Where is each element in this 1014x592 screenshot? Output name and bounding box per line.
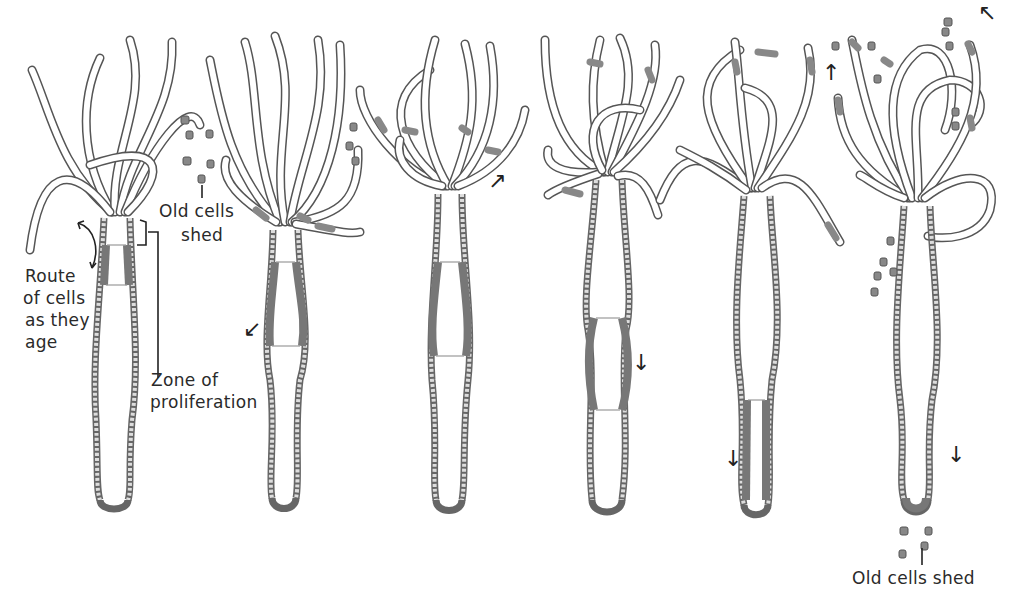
hydra-stage-4 <box>545 38 680 512</box>
route-label-line1: Route <box>25 265 76 287</box>
arrow-down-stage-2: ↙ <box>243 318 261 340</box>
tentacles <box>838 40 992 238</box>
arrow-down-stage-5: ↓ <box>724 448 742 470</box>
zone-of-proliferation-label-line2: proliferation <box>150 391 258 413</box>
old-cells-shed-label-bottom: Old cells shed <box>852 567 975 589</box>
tentacles <box>360 40 525 186</box>
route-label-line2: of cells <box>23 287 85 309</box>
arrow-down-stage-4: ↓ <box>632 352 650 374</box>
body-column <box>95 218 136 509</box>
body-column <box>897 206 938 512</box>
arrow-up-right-stage-3: ↗ <box>488 170 506 192</box>
route-label-line3: as they <box>25 309 90 331</box>
body-column <box>267 230 305 509</box>
hydra-stage-3 <box>360 40 525 511</box>
arrow-down-stage-6: ↓ <box>947 444 965 466</box>
old-cells-shed-label-top-line2: shed <box>181 224 223 246</box>
hydra-stage-6 <box>838 40 992 512</box>
arrow-up-stage-5: ↑ <box>822 62 840 84</box>
route-label-line4: age <box>25 331 58 353</box>
body-column <box>431 194 470 511</box>
old-cells-shed-label-top-line1: Old cells <box>159 200 234 222</box>
body-column <box>586 180 629 512</box>
body-column <box>737 196 778 515</box>
hydra-illustration <box>0 0 1014 592</box>
hydra-stage-2 <box>210 36 360 509</box>
hydra-cell-migration-figure: Old cells shed Route of cells as they ag… <box>0 0 1014 592</box>
hydra-stage-5 <box>660 42 840 515</box>
zone-of-proliferation-label-line1: Zone of <box>151 369 218 391</box>
arrow-up-left-stage-6: ↖ <box>978 2 996 24</box>
